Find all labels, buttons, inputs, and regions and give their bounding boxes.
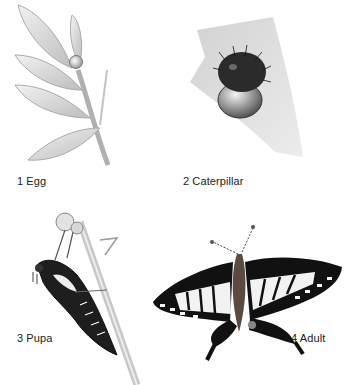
stage-label-adult: 4 Adult (291, 332, 325, 344)
stage-label-egg: 1 Egg (17, 175, 46, 187)
egg-on-leaf-icon (0, 0, 140, 175)
stage-label-pupa: 3 Pupa (17, 332, 52, 344)
pupa-on-stem-icon (25, 210, 145, 385)
stage-label-caterpillar: 2 Caterpillar (183, 175, 244, 187)
caterpillar-hatching-icon (185, 12, 310, 162)
